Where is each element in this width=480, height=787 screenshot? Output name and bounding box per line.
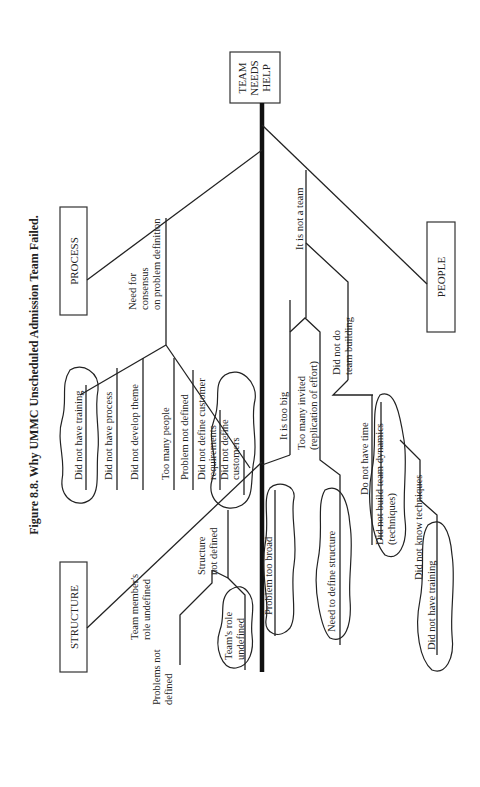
- consensus-label: Need for consensus on problem definition: [127, 218, 162, 310]
- structure-nd-label: Structure not defined: [196, 527, 219, 575]
- cause-too-big: It is too big: [278, 391, 289, 440]
- svg-text:Did not define: Did not define: [219, 419, 230, 480]
- svg-text:Too many invited: Too many invited: [296, 375, 307, 450]
- svg-text:Problems not: Problems not: [151, 649, 162, 705]
- svg-text:Did not do: Did not do: [331, 330, 342, 375]
- svg-text:Need for: Need for: [127, 272, 138, 310]
- svg-text:Did not define customer: Did not define customer: [196, 378, 207, 480]
- consensus-upper: [80, 345, 166, 395]
- svg-text:Team member's: Team member's: [129, 574, 140, 640]
- people-label: PEOPLE: [435, 257, 447, 298]
- cause-process: Did not have process: [103, 392, 114, 480]
- cause-customers: Did not define customers: [219, 419, 241, 480]
- cause-training2: Did not have training: [426, 560, 437, 650]
- cause-training: Did not have training: [73, 390, 84, 480]
- svg-text:customers: customers: [230, 437, 241, 480]
- cause-define-structure: Need to define structure: [326, 530, 337, 632]
- svg-text:Team's role: Team's role: [223, 612, 234, 660]
- process-label: PROCESS: [68, 237, 80, 285]
- people-bone: [262, 125, 427, 284]
- head-label: TEAM NEEDS HELP: [236, 60, 272, 95]
- svg-text:defined: defined: [163, 673, 174, 705]
- figure-title: Figure 8.8. Why UMMC Unscheduled Admissi…: [27, 215, 41, 535]
- problems-nd-label2: defined: [163, 673, 174, 705]
- svg-text:NEEDS: NEEDS: [248, 60, 260, 95]
- svg-text:(techniques): (techniques): [386, 493, 398, 545]
- cause-not-team: It is not a team: [294, 188, 305, 250]
- process-bone: [87, 150, 262, 280]
- svg-text:TEAM: TEAM: [236, 62, 248, 93]
- svg-text:Structure: Structure: [196, 536, 207, 575]
- cause-team-building: Did not do team building: [331, 316, 354, 375]
- svg-text:requirements: requirements: [207, 425, 218, 480]
- svg-text:Did not build team dynamics: Did not build team dynamics: [374, 423, 385, 545]
- too-big-connector: [262, 455, 290, 465]
- cause-no-time: Do not have time: [359, 422, 370, 495]
- cause-too-many: Too many people: [160, 407, 171, 480]
- team-building-fork: [333, 380, 373, 395]
- svg-text:team building: team building: [343, 316, 354, 375]
- svg-text:HELP: HELP: [260, 64, 272, 92]
- fishbone-diagram: Figure 8.8. Why UMMC Unscheduled Admissi…: [0, 0, 480, 787]
- member-role-label: Team member's role undefined: [129, 574, 152, 640]
- cause-problem-nd: Problem not defined: [179, 394, 190, 480]
- svg-text:consensus: consensus: [139, 267, 150, 310]
- svg-text:(replication of effort): (replication of effort): [308, 360, 320, 450]
- problems-nd-label: Problems not: [151, 649, 162, 705]
- svg-text:role undefined: role undefined: [141, 578, 152, 640]
- problems-nd-line: [180, 570, 212, 665]
- team-role-label: Team's role undefined: [223, 612, 246, 660]
- cause-too-many-invited: Too many invited (replication of effort): [296, 360, 320, 450]
- svg-text:not defined: not defined: [208, 527, 219, 575]
- cause-theme: Did not develop theme: [129, 384, 140, 480]
- structure-label: STRUCTURE: [68, 585, 80, 649]
- cause-dynamics: Did not build team dynamics (techniques): [374, 423, 398, 545]
- svg-text:undefined: undefined: [235, 617, 246, 660]
- svg-text:on problem definition: on problem definition: [151, 218, 162, 310]
